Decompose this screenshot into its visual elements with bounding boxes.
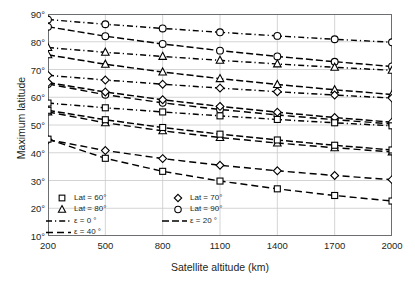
data-point-marker-triangle: [48, 43, 52, 50]
data-point-marker-circle: [217, 47, 224, 54]
data-point-marker-square: [389, 198, 392, 204]
data-point-marker-diamond: [331, 172, 339, 180]
data-point-marker-square: [389, 147, 392, 153]
x-axis-label: Satellite altitude (km): [48, 261, 392, 273]
legend-marker-label: Lat = 90°: [190, 204, 222, 213]
y-tick-label: 60°: [31, 92, 45, 103]
data-point-marker-circle: [331, 36, 338, 43]
legend-marker-label: Lat = 80°: [74, 204, 106, 213]
y-tick-label: 80°: [31, 36, 45, 47]
data-point-marker-square: [102, 105, 108, 111]
y-tick-label: 40°: [31, 147, 45, 158]
data-point-marker-square: [389, 123, 392, 129]
data-point-marker-square: [274, 116, 280, 122]
y-tick-label: 50°: [31, 120, 45, 131]
data-point-marker-square: [102, 155, 108, 161]
legend-line-label: ε = 20 °: [190, 216, 217, 225]
data-point-marker-square: [274, 186, 280, 192]
data-point-marker-diamond: [273, 88, 281, 96]
data-point-marker-diamond: [101, 147, 109, 155]
x-tick-label: 500: [97, 240, 113, 251]
data-point-marker-square: [48, 107, 51, 113]
x-tick-label: 2000: [381, 240, 402, 251]
y-tick-label: 30°: [31, 175, 45, 186]
data-point-marker-square: [160, 168, 166, 174]
data-point-marker-circle: [102, 21, 109, 28]
data-point-marker-triangle: [48, 51, 52, 58]
data-point-marker-square: [48, 136, 51, 142]
data-point-marker-square: [160, 124, 166, 130]
data-point-marker-triangle: [159, 52, 167, 59]
data-point-marker-square: [332, 142, 338, 148]
data-point-marker-diamond: [216, 84, 224, 92]
data-point-marker-circle: [274, 33, 281, 40]
data-point-marker-diamond: [273, 167, 281, 175]
x-tick-label: 200: [40, 240, 56, 251]
data-point-marker-circle: [102, 33, 109, 40]
data-point-marker-square: [160, 109, 166, 115]
legend-line-label: ε = 0 °: [74, 216, 97, 225]
data-point-marker-triangle: [274, 80, 282, 87]
data-point-marker-diamond: [388, 176, 392, 184]
chart-figure: 10°20°30°40°50°60°70°80°90° 200500800110…: [0, 0, 415, 292]
data-point-marker-square: [332, 120, 338, 126]
data-point-marker-triangle: [216, 56, 224, 63]
data-point-marker-square: [48, 100, 51, 106]
data-point-marker-diamond: [48, 71, 52, 79]
data-point-marker-square: [217, 131, 223, 137]
y-tick-label: 20°: [31, 203, 45, 214]
legend-line-label: ε = 40 °: [74, 227, 101, 236]
legend-marker-label: Lat = 60°: [74, 193, 106, 202]
data-point-marker-circle: [48, 16, 51, 23]
chart-canvas: [48, 14, 392, 236]
x-tick-label: 800: [155, 240, 171, 251]
data-point-marker-square: [217, 113, 223, 119]
y-tick-label: 70°: [31, 64, 45, 75]
x-tick-label: 1700: [324, 240, 345, 251]
data-point-marker-diamond: [159, 80, 167, 88]
data-point-marker-circle: [389, 39, 392, 46]
plot-area: [48, 14, 392, 236]
y-tick-label: 90°: [31, 9, 45, 20]
y-axis-label: Maximum latitude: [15, 53, 27, 183]
x-axis-ticks: 2005008001100140017002000: [48, 240, 392, 254]
data-point-marker-circle: [159, 41, 166, 48]
data-point-marker-square: [332, 192, 338, 198]
legend-marker-label: Lat = 70°: [190, 193, 222, 202]
data-point-marker-circle: [48, 23, 51, 30]
data-point-marker-diamond: [101, 76, 109, 84]
x-tick-label: 1100: [210, 240, 230, 251]
data-point-marker-square: [274, 137, 280, 143]
data-point-marker-square: [102, 117, 108, 123]
data-point-marker-circle: [217, 29, 224, 36]
data-point-marker-square: [217, 178, 223, 184]
data-point-marker-diamond: [216, 161, 224, 169]
x-tick-label: 1400: [267, 240, 288, 251]
data-point-marker-circle: [159, 25, 166, 32]
data-point-marker-diamond: [159, 155, 167, 163]
